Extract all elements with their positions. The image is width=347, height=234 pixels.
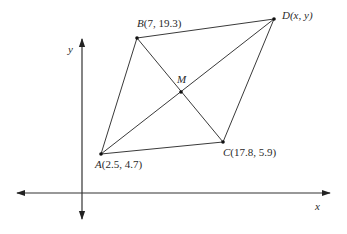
- diagonals: [101, 19, 274, 154]
- label-D-name: D: [282, 9, 290, 21]
- y-axis-label: y: [68, 44, 73, 55]
- segment-DC: [223, 19, 274, 142]
- point-A: [99, 152, 103, 156]
- label-C-coords: (17.8, 5.9): [230, 146, 276, 158]
- label-A-name: A: [95, 158, 102, 170]
- diagonal-AD: [101, 19, 274, 154]
- label-C: C(17.8, 5.9): [223, 147, 276, 158]
- diagonal-BC: [137, 38, 223, 142]
- label-B-name: B: [137, 17, 144, 29]
- x-axis-label: x: [315, 201, 320, 212]
- point-D: [272, 17, 276, 21]
- label-D: D(x, y): [282, 10, 313, 21]
- label-A: A(2.5, 4.7): [95, 159, 142, 170]
- point-M: [179, 90, 183, 94]
- segment-AB: [101, 38, 137, 154]
- label-B: B(7, 19.3): [137, 18, 181, 29]
- coordinate-plane: [0, 0, 347, 234]
- segment-CA: [101, 142, 223, 154]
- point-C: [221, 140, 225, 144]
- label-D-coords: (x, y): [290, 9, 313, 21]
- point-B: [135, 36, 139, 40]
- label-A-coords: (2.5, 4.7): [102, 158, 142, 170]
- label-M: M: [177, 74, 186, 85]
- label-B-coords: (7, 19.3): [144, 17, 182, 29]
